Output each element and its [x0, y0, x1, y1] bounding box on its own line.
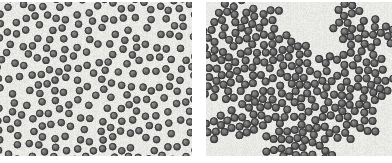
aggregated-colloid-panel [206, 2, 392, 156]
dispersed-colloid-panel [0, 2, 192, 156]
two-panel-figure [0, 0, 392, 163]
dispersed-colloid-canvas [0, 2, 192, 156]
aggregated-colloid-canvas [206, 2, 392, 156]
